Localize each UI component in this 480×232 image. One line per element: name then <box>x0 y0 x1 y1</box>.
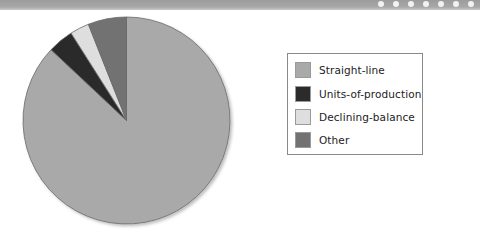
dot-icon <box>453 1 459 7</box>
dot-icon <box>468 1 474 7</box>
legend-label: Units-of-production <box>319 88 421 100</box>
legend-item-units-of-production: Units-of-production <box>295 85 421 102</box>
legend-item-declining-balance: Declining-balance <box>295 108 415 125</box>
legend-swatch <box>295 109 311 125</box>
legend-item-other: Other <box>295 131 349 148</box>
dot-icon <box>438 1 444 7</box>
dot-icon <box>378 1 384 7</box>
legend-label: Declining-balance <box>319 111 415 123</box>
legend-label: Other <box>319 134 349 146</box>
legend-swatch <box>295 86 311 102</box>
decorative-dots <box>378 1 474 9</box>
dot-icon <box>408 1 414 7</box>
pie-chart <box>0 0 260 232</box>
legend-item-straight-line: Straight-line <box>295 61 385 78</box>
dot-icon <box>423 1 429 7</box>
legend-label: Straight-line <box>319 64 385 76</box>
chart-legend: Straight-line Units-of-production Declin… <box>287 53 423 155</box>
dot-icon <box>393 1 399 7</box>
legend-swatch <box>295 62 311 78</box>
legend-swatch <box>295 132 311 148</box>
